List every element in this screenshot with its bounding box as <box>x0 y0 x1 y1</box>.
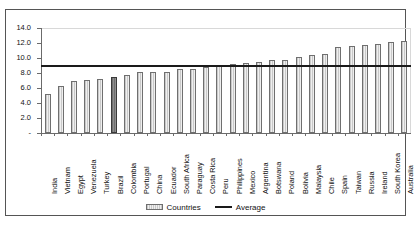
bar[interactable] <box>309 55 315 133</box>
y-axis-tick <box>37 88 41 89</box>
x-tick-label: Argentina <box>262 162 270 194</box>
bar-column[interactable] <box>84 28 90 133</box>
y-tick-label: 6.0 <box>21 84 31 92</box>
bar[interactable] <box>256 62 262 133</box>
bar-column[interactable] <box>203 28 209 133</box>
bar[interactable] <box>335 47 341 133</box>
bar[interactable] <box>84 80 90 133</box>
x-tick-label: Taiwan <box>355 171 363 194</box>
y-axis-tick <box>37 103 41 104</box>
y-axis-tick <box>37 133 41 134</box>
y-axis-tick <box>37 118 41 119</box>
y-tick-label: 4.0 <box>21 99 31 107</box>
y-tick-label: 12.0 <box>16 39 31 47</box>
x-tick-label: Brazil <box>117 176 125 194</box>
bar-column[interactable] <box>216 28 222 133</box>
bar[interactable] <box>388 42 394 133</box>
x-tick-label: Paraguay <box>196 162 204 194</box>
bar[interactable] <box>362 45 368 133</box>
bar-column[interactable] <box>256 28 262 133</box>
x-tick-label: Poland <box>288 171 296 194</box>
bar[interactable] <box>190 69 196 134</box>
average-line <box>41 65 411 67</box>
bar[interactable] <box>230 64 236 133</box>
x-tick-label: Chile <box>328 177 336 194</box>
bar[interactable] <box>177 69 183 133</box>
bar[interactable] <box>375 44 381 133</box>
legend-label-average: Average <box>236 203 266 212</box>
bar[interactable] <box>58 86 64 133</box>
bar[interactable] <box>203 67 209 133</box>
bar-column[interactable] <box>322 28 328 133</box>
chart-container: -2.04.06.08.010.012.014.0 IndiaVietnamEg… <box>5 9 406 216</box>
x-tick-label: South Korea <box>394 153 402 194</box>
y-tick-label: - <box>29 129 32 137</box>
y-tick-label: 2.0 <box>21 114 31 122</box>
bar-column[interactable] <box>388 28 394 133</box>
bar-column[interactable] <box>335 28 341 133</box>
legend-bar-swatch-icon <box>146 204 163 210</box>
bar-column[interactable] <box>177 28 183 133</box>
bar[interactable] <box>349 46 355 133</box>
x-tick-label: South Africa <box>183 154 191 194</box>
bar-column[interactable] <box>375 28 381 133</box>
legend-item-average[interactable]: Average <box>215 203 266 212</box>
x-tick-label: Botswana <box>275 162 283 194</box>
x-tick-label: Colombia <box>130 163 138 194</box>
x-tick-label: Venezuela <box>90 159 98 194</box>
bar-column[interactable] <box>150 28 156 133</box>
bar[interactable] <box>282 60 288 134</box>
legend-item-countries[interactable]: Countries <box>146 203 201 212</box>
y-axis-labels: -2.04.06.08.010.012.014.0 <box>6 10 38 133</box>
y-axis-tick <box>37 73 41 74</box>
x-tick-label: Egypt <box>77 175 85 194</box>
bar-column[interactable] <box>164 28 170 133</box>
bar-column[interactable] <box>58 28 64 133</box>
bar[interactable] <box>111 77 117 133</box>
bar-series <box>41 28 411 133</box>
plot-area <box>41 28 411 133</box>
bar[interactable] <box>150 72 156 134</box>
bar-column[interactable] <box>71 28 77 133</box>
chart-legend: Countries Average <box>6 200 405 214</box>
bar-column[interactable] <box>137 28 143 133</box>
x-tick-label: Turkey <box>103 172 111 194</box>
bar-column[interactable] <box>230 28 236 133</box>
bar-column[interactable] <box>401 28 407 133</box>
bar-column[interactable] <box>243 28 249 133</box>
y-tick-label: 10.0 <box>16 54 31 62</box>
bar-column[interactable] <box>45 28 51 133</box>
x-axis-labels: IndiaVietnamEgyptVenezuelaTurkeyBrazilCo… <box>41 136 411 196</box>
y-axis-tick <box>37 43 41 44</box>
bar-column[interactable] <box>124 28 130 133</box>
bar-column[interactable] <box>269 28 275 133</box>
bar[interactable] <box>124 75 130 134</box>
y-tick-label: 8.0 <box>21 69 31 77</box>
bar[interactable] <box>137 72 143 133</box>
bar[interactable] <box>164 72 170 134</box>
bar-column[interactable] <box>362 28 368 133</box>
x-tick-label: Australia <box>407 165 415 194</box>
bar-column[interactable] <box>190 28 196 133</box>
x-tick-label: Ireland <box>381 171 389 194</box>
bar-column[interactable] <box>282 28 288 133</box>
bar[interactable] <box>401 41 407 133</box>
x-tick-label: Mexico <box>249 171 257 194</box>
bar[interactable] <box>71 81 77 133</box>
bar[interactable] <box>243 63 249 133</box>
bar-column[interactable] <box>309 28 315 133</box>
bar-column[interactable] <box>296 28 302 133</box>
bar[interactable] <box>296 57 302 134</box>
x-tick-label: Peru <box>222 178 230 194</box>
bar-column[interactable] <box>97 28 103 133</box>
bar[interactable] <box>45 94 51 133</box>
x-tick-label: Russia <box>368 171 376 194</box>
x-tick-label: China <box>156 175 164 194</box>
y-axis-tick <box>37 58 41 59</box>
bar-column[interactable] <box>349 28 355 133</box>
bar[interactable] <box>97 79 103 133</box>
bar[interactable] <box>216 66 222 133</box>
bar[interactable] <box>269 60 275 133</box>
bar-column[interactable] <box>111 28 117 133</box>
x-tick-label: Philippines <box>236 158 244 194</box>
